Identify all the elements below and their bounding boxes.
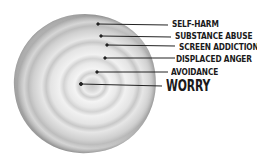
- layer-label-self-harm: SELF-HARM: [172, 19, 219, 29]
- layer-label-displaced-anger: DISPLACED ANGER: [176, 54, 252, 64]
- layer-label-screen-addiction: SCREEN ADDICTION: [179, 42, 257, 52]
- layer-label-worry: WORRY: [166, 79, 210, 94]
- layer-label-substance-abuse: SUBSTANCE ABUSE: [175, 31, 252, 41]
- layer-label-avoidance: AVOIDANCE: [171, 67, 218, 77]
